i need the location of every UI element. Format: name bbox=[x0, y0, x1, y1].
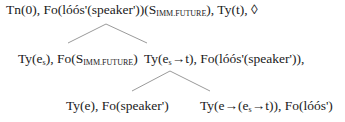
l2l-text: Ty(e), Fo(speaker') bbox=[66, 98, 169, 113]
l2r-text-b: →t)), Fo(lóós') bbox=[252, 98, 333, 113]
level2-left-node: Ty(e), Fo(speaker') bbox=[66, 98, 169, 114]
level2-right-node: Ty(e→(es→t)), Fo(lóós') bbox=[200, 98, 333, 118]
root-text-b: ), Ty(t), ◊ bbox=[206, 2, 257, 17]
root-node: Tn(0), Fo(lóós'(speaker'))(SIMM.FUTURE),… bbox=[6, 2, 258, 22]
edge-right-right bbox=[170, 71, 210, 91]
l1l-text-b: ), Fo(S bbox=[46, 51, 84, 66]
level1-right-node: Ty(es→t), Fo(lóós'(speaker')), bbox=[144, 51, 304, 71]
root-text-a: Tn(0), Fo(lóós'(speaker'))(S bbox=[6, 2, 156, 17]
edge-root-right bbox=[106, 24, 147, 43]
l1r-text-a: Ty(e bbox=[144, 51, 169, 66]
edge-right-left bbox=[132, 71, 170, 91]
edge-root-left bbox=[68, 24, 106, 43]
level1-left-node: Ty(es), Fo(SIMM.FUTURE) bbox=[18, 51, 138, 71]
l2r-text-a: Ty(e→(e bbox=[200, 98, 249, 113]
l1r-text-b: →t), Fo(lóós'(speaker')), bbox=[172, 51, 305, 66]
l1l-sub-future: IMM.FUTURE bbox=[83, 58, 133, 67]
root-subscript: IMM.FUTURE bbox=[156, 9, 206, 18]
l1l-text-c: ) bbox=[133, 51, 138, 66]
l1l-text-a: Ty(e bbox=[18, 51, 43, 66]
